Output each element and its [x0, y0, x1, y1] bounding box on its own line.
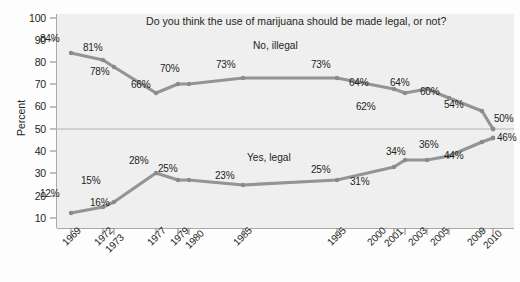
value-label-yes-1979: 25% [158, 163, 177, 174]
value-label-yes-2010: 46% [497, 132, 516, 143]
value-label-no-2003: 64% [390, 77, 409, 88]
series-label-no-illegal: No, illegal [253, 40, 298, 51]
y-tick-60: 60 [18, 100, 46, 112]
value-label-no-2010: 50% [494, 113, 513, 124]
value-label-no-1985: 73% [216, 59, 235, 70]
value-label-no-1969: 84% [40, 33, 59, 44]
y-tick-50: 50 [18, 123, 46, 135]
y-axis-title: Percent [15, 83, 27, 153]
value-label-no-2001: 62% [356, 101, 375, 112]
series-label-yes-legal: Yes, legal [247, 152, 291, 163]
value-label-yes-2005: 36% [419, 139, 438, 150]
value-label-yes-2001: 34% [386, 146, 405, 157]
value-label-no-2000: 64% [349, 77, 368, 88]
value-label-yes-1977: 28% [129, 155, 148, 166]
chart-title: Do you think the use of marijuana should… [146, 15, 446, 27]
value-label-no-1972: 81% [83, 42, 102, 53]
value-label-no-2009: 54% [444, 99, 463, 110]
value-label-yes-1969: 12% [40, 188, 59, 199]
y-tick-70: 70 [18, 78, 46, 90]
value-label-yes-1995: 25% [311, 164, 330, 175]
value-label-no-2005: 60% [420, 86, 439, 97]
value-label-yes-1973: 16% [90, 197, 109, 208]
y-tick-100: 100 [18, 12, 46, 24]
chart-root: Percent 100 90 80 70 60 50 40 30 20 10 1… [0, 0, 520, 282]
y-tick-40: 40 [18, 145, 46, 157]
value-label-no-1995: 73% [311, 59, 330, 70]
value-label-no-1979: 70% [160, 63, 179, 74]
y-tick-10: 10 [18, 212, 46, 224]
value-label-yes-2000: 31% [350, 176, 369, 187]
value-label-yes-2009: 44% [444, 150, 463, 161]
value-label-yes-1972: 15% [81, 175, 100, 186]
value-label-yes-1985: 23% [215, 170, 234, 181]
value-label-no-1977: 66% [131, 79, 150, 90]
value-label-no-1973: 78% [90, 66, 109, 77]
y-tick-30: 30 [18, 167, 46, 179]
x-tick-marks [71, 228, 493, 235]
y-tick-80: 80 [18, 56, 46, 68]
